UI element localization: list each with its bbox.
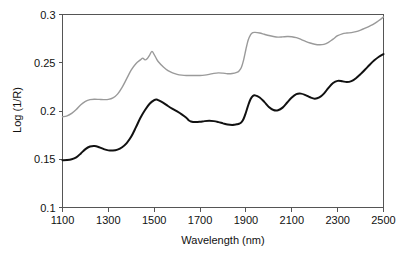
y-tick-label: 0.25 [34, 57, 55, 69]
x-tick-label: 1300 [96, 214, 120, 226]
series-upper-spectrum [63, 17, 384, 117]
chart-figure: 11001300150017001900210023002500 0.10.15… [0, 0, 405, 254]
series-lines [63, 17, 384, 160]
y-tick-label: 0.2 [40, 105, 55, 117]
x-tick-label: 1700 [188, 214, 212, 226]
x-tick-label: 1900 [234, 214, 258, 226]
y-tick-label: 0.1 [40, 202, 55, 214]
series-lower-spectrum [63, 54, 384, 160]
x-tick-label: 2100 [280, 214, 304, 226]
x-tick-label: 1500 [142, 214, 166, 226]
x-axis-title: Wavelength (nm) [181, 234, 264, 246]
y-axis-title: Log (1/R) [11, 87, 23, 133]
plot-border [63, 15, 384, 208]
y-tick-label: 0.15 [34, 153, 55, 165]
x-axis-tick-labels: 11001300150017001900210023002500 [51, 214, 396, 226]
x-tick-label: 1100 [51, 214, 75, 226]
plot-frame [63, 15, 384, 208]
y-axis-tick-labels: 0.10.150.20.250.3 [34, 9, 55, 214]
y-axis-ticks [59, 15, 63, 208]
spectra-line-chart: 11001300150017001900210023002500 0.10.15… [0, 0, 405, 254]
y-tick-label: 0.3 [40, 9, 55, 21]
x-tick-label: 2300 [325, 214, 349, 226]
x-tick-label: 2500 [371, 214, 395, 226]
x-axis-ticks [63, 208, 384, 212]
